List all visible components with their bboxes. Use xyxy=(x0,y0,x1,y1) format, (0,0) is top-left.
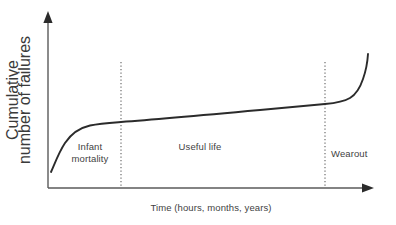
region-label-wearout: Wearout xyxy=(331,148,387,160)
region-label-useful-life: Useful life xyxy=(165,141,235,153)
x-axis-label-text: Time (hours, months, years) xyxy=(150,202,271,213)
region-label-infant-mortality-line2: mortality xyxy=(72,153,109,164)
y-axis-label: Cumulative number of failures xyxy=(7,35,31,165)
region-label-infant-mortality: Infant mortality xyxy=(57,141,123,165)
y-axis xyxy=(43,11,52,188)
region-label-infant-mortality-line1: Infant xyxy=(78,141,102,152)
region-label-wearout-line1: Wearout xyxy=(331,148,367,159)
region-label-useful-life-line1: Useful life xyxy=(179,141,222,152)
y-axis-label-line2: number of failures xyxy=(19,35,31,165)
x-axis-arrow-icon xyxy=(362,183,374,192)
chart-plot-area xyxy=(0,0,396,225)
x-axis-label: Time (hours, months, years) xyxy=(118,202,304,214)
bathtub-curve-figure: Cumulative number of failures Infant mor… xyxy=(0,0,396,225)
y-axis-arrow-icon xyxy=(43,11,52,23)
